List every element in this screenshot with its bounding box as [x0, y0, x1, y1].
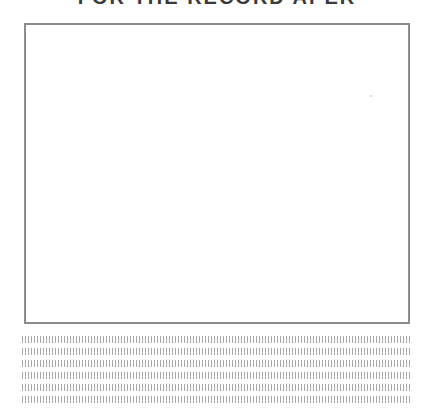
writing-line[interactable]: [22, 348, 412, 355]
writing-line[interactable]: [22, 384, 412, 391]
writing-line[interactable]: [22, 396, 412, 403]
writing-line[interactable]: [22, 336, 412, 343]
worksheet-title: FOR THE RECORD APER: [0, 0, 434, 9]
paper-speck: [370, 95, 372, 97]
writing-lines: [22, 336, 412, 408]
writing-line[interactable]: [22, 360, 412, 367]
drawing-box[interactable]: [24, 23, 410, 324]
writing-line[interactable]: [22, 372, 412, 379]
